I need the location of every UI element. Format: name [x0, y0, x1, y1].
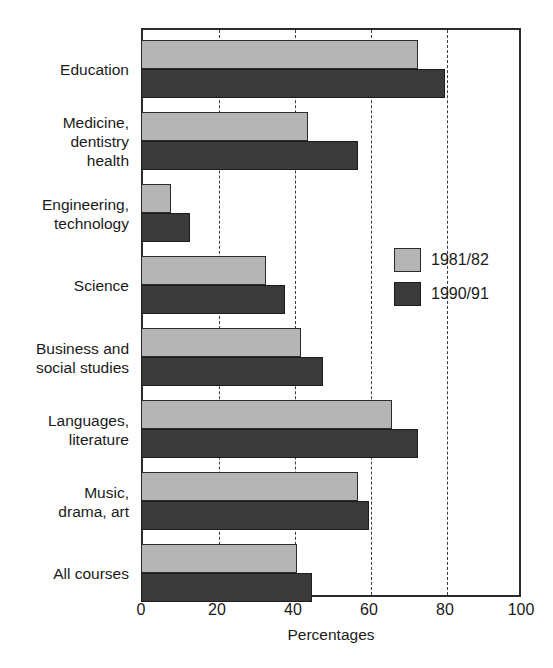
x-tick-20: 20 — [208, 600, 226, 620]
category-label-languages-literature: Languages, literature — [0, 411, 129, 449]
bar-1981-education — [141, 40, 418, 69]
bar-1981-music-drama-art — [141, 472, 358, 501]
category-label-medicine-dentistry-health: Medicine, dentistry health — [0, 113, 129, 170]
bar-1990-science — [141, 285, 285, 314]
bar-1990-all-courses — [141, 573, 312, 602]
category-label-science: Science — [0, 276, 129, 295]
bar-1981-business-and-social-studies — [141, 328, 301, 357]
bars-layer — [141, 28, 521, 597]
category-label-engineering-technology: Engineering, technology — [0, 195, 129, 233]
bar-1990-medicine-dentistry-health — [141, 141, 358, 170]
bar-chart-figure: Education Medicine, dentistry health Eng… — [0, 0, 553, 668]
legend-label-1981-82: 1981/82 — [431, 251, 489, 269]
bar-1990-education — [141, 69, 445, 98]
category-label-education: Education — [0, 60, 129, 79]
legend-swatch-icon-1981-82 — [394, 248, 421, 272]
bar-1981-all-courses — [141, 544, 297, 573]
legend-item-1981-82: 1981/82 — [394, 243, 489, 277]
bar-1981-engineering-technology — [141, 184, 171, 213]
bar-1981-languages-literature — [141, 400, 392, 429]
bar-1990-music-drama-art — [141, 501, 369, 530]
x-axis-tick-labels: 0 20 40 60 80 100 — [141, 600, 521, 624]
bar-1981-medicine-dentistry-health — [141, 112, 308, 141]
category-label-music-drama-art: Music, drama, art — [0, 483, 129, 521]
bar-1990-business-and-social-studies — [141, 357, 323, 386]
x-tick-40: 40 — [284, 600, 302, 620]
x-tick-60: 60 — [360, 600, 378, 620]
category-label-business-and-social-studies: Business and social studies — [0, 339, 129, 377]
bar-1981-science — [141, 256, 266, 285]
legend-label-1990-91: 1990/91 — [431, 285, 489, 303]
category-axis-labels: Education Medicine, dentistry health Eng… — [0, 28, 135, 597]
bar-1990-languages-literature — [141, 429, 418, 458]
x-tick-80: 80 — [436, 600, 454, 620]
x-tick-0: 0 — [137, 600, 146, 620]
category-label-all-courses: All courses — [0, 564, 129, 583]
x-axis-title: Percentages — [141, 626, 521, 644]
legend-item-1990-91: 1990/91 — [394, 277, 489, 311]
x-tick-100: 100 — [508, 600, 535, 620]
bar-1990-engineering-technology — [141, 213, 190, 242]
legend-swatch-icon-1990-91 — [394, 282, 421, 306]
chart-legend: 1981/82 1990/91 — [394, 243, 489, 311]
